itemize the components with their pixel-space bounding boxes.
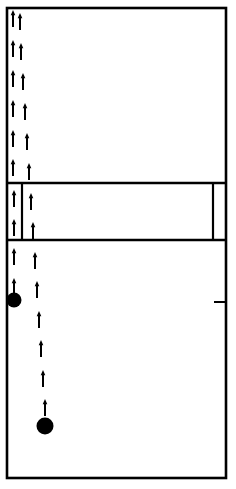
up-arrow-icon-left-3 <box>11 70 16 87</box>
up-arrow-icon-right-2 <box>19 43 24 60</box>
up-arrow-icon-right-1 <box>18 13 23 30</box>
up-arrow-icon-right-3 <box>21 73 26 90</box>
up-arrow-icon-right-12 <box>39 340 44 357</box>
arrow-head-icon <box>31 222 36 227</box>
up-arrow-icon-right-11 <box>37 311 42 328</box>
up-arrow-icon-right-5 <box>25 133 30 150</box>
node-lower <box>37 418 54 435</box>
up-arrow-icon-left-2 <box>11 40 16 57</box>
arrow-head-icon <box>11 10 16 15</box>
arrow-head-icon <box>11 100 16 105</box>
arrow-head-icon <box>35 281 40 286</box>
arrow-head-icon <box>11 40 16 45</box>
up-arrow-icon-right-7 <box>29 193 34 210</box>
up-arrow-icon-right-6 <box>27 163 32 180</box>
arrow-head-icon <box>23 103 28 108</box>
up-arrow-icon-left-6 <box>11 159 16 176</box>
up-arrow-icon-right-13 <box>41 370 46 387</box>
diagram-svg <box>0 0 236 489</box>
band-group <box>7 183 226 240</box>
arrow-head-icon <box>18 13 23 18</box>
arrow-head-icon <box>33 252 38 257</box>
frame-group <box>7 8 226 478</box>
band-vertical-dividers <box>22 183 213 240</box>
arrow-head-icon <box>39 340 44 345</box>
up-arrow-icon-right-10 <box>35 281 40 298</box>
arrow-head-icon <box>12 219 17 224</box>
arrow-head-icon <box>37 311 42 316</box>
arrow-head-icon <box>29 193 34 198</box>
diagram-canvas <box>0 0 236 489</box>
arrow-head-icon <box>11 70 16 75</box>
arrow-head-icon <box>27 163 32 168</box>
arrow-head-icon <box>43 399 48 404</box>
up-arrow-icon-right-8 <box>31 222 36 239</box>
arrow-track-left <box>11 10 17 295</box>
up-arrow-icon-left-8 <box>12 219 17 236</box>
up-arrow-icon-left-5 <box>11 130 16 147</box>
node-upper <box>7 293 22 308</box>
arrow-head-icon <box>41 370 46 375</box>
arrow-head-icon <box>11 159 16 164</box>
up-arrow-icon-left-7 <box>12 190 17 207</box>
up-arrow-icon-left-4 <box>11 100 16 117</box>
up-arrow-icon-left-9 <box>12 248 17 265</box>
arrow-head-icon <box>12 248 17 253</box>
arrow-head-icon <box>19 43 24 48</box>
up-arrow-icon-left-10 <box>12 278 17 295</box>
arrow-head-icon <box>11 130 16 135</box>
up-arrow-icon-right-9 <box>33 252 38 269</box>
node-group <box>7 293 54 435</box>
outer-frame <box>7 8 226 478</box>
arrow-head-icon <box>12 190 17 195</box>
arrow-head-icon <box>12 278 17 283</box>
arrow-head-icon <box>21 73 26 78</box>
up-arrow-icon-right-14 <box>43 399 48 416</box>
up-arrow-icon-left-1 <box>11 10 16 27</box>
arrow-head-icon <box>25 133 30 138</box>
up-arrow-icon-right-4 <box>23 103 28 120</box>
